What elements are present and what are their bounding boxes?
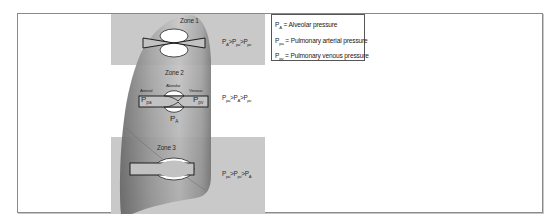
legend-text: = Pulmonary arterial pressure [285,37,367,44]
pressure-subscript: A [249,174,252,179]
zone-1-title: Zone 1 [180,17,199,24]
legend-subscript: pa [279,40,283,45]
pressure-subscript: A [175,119,178,124]
zone-2-title: Zone 2 [165,69,184,76]
p-alveolar-label: PA [170,114,178,124]
venous-label: Venous [189,88,202,93]
alveolar-label: Alveolar [166,83,180,88]
pressure-subscript: pv [198,100,203,105]
zone-3-title: Zone 3 [157,144,176,151]
p-arterial-label: Ppa [141,95,151,105]
legend-item-arterial: Ppa = Pulmonary arterial pressure [275,34,364,50]
pressure-subscript: pa [146,100,151,105]
zone-1-pressure-relation: PA>Ppa>Ppv [222,38,251,47]
legend-text: = Pulmonary venous pressure [285,52,369,59]
legend-subscript: pv [279,56,283,61]
legend-item-alveolar: PA = Alveolar pressure [275,18,364,34]
zone-2-pressure-relation: Ppa>PA>Ppv [222,94,251,103]
legend-item-venous: Ppv = Pulmonary venous pressure [275,49,364,65]
arterial-label: Arterial [140,88,152,93]
p-venous-label: Ppv [193,95,203,105]
legend-box: PA = Alveolar pressure Ppa = Pulmonary a… [271,14,365,61]
zone-3-pressure-relation: Ppa>Ppv>PA [222,170,251,179]
legend-text: = Alveolar pressure [284,21,338,28]
pressure-subscript: pv [247,42,251,47]
pressure-subscript: pv [247,98,251,103]
legend-subscript: A [279,25,282,30]
